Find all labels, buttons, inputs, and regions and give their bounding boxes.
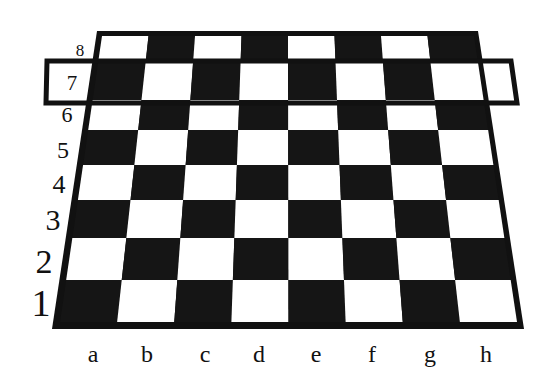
square-d3 [234, 200, 288, 238]
square-c3 [180, 200, 235, 238]
square-b7 [141, 61, 193, 100]
chessboard-svg: 87654321 abcdefgh [0, 0, 556, 385]
square-a5 [83, 130, 138, 165]
square-h7 [430, 61, 483, 100]
file-label-d: d [253, 341, 265, 367]
square-a7 [93, 61, 146, 100]
square-g1 [400, 280, 460, 322]
square-d4 [236, 165, 289, 200]
square-e4 [288, 165, 341, 200]
square-c1 [174, 280, 233, 322]
square-f4 [340, 165, 394, 200]
rank-label-7: 7 [67, 71, 78, 95]
square-d8 [241, 36, 288, 61]
square-a2 [66, 238, 126, 280]
square-f8 [335, 36, 383, 61]
square-e2 [288, 238, 344, 280]
square-h4 [442, 165, 499, 200]
file-label-c: c [200, 341, 211, 367]
square-f7 [335, 61, 385, 100]
square-c8 [193, 36, 241, 61]
square-h2 [450, 238, 510, 280]
square-a3 [72, 200, 130, 238]
square-g2 [396, 238, 455, 280]
chessboard-diagram: 87654321 abcdefgh [0, 0, 556, 385]
board-squares [60, 36, 517, 322]
square-c5 [186, 130, 239, 165]
file-label-e: e [311, 341, 322, 367]
square-g4 [391, 165, 446, 200]
square-b8 [146, 36, 195, 61]
square-d2 [233, 238, 289, 280]
square-e8 [288, 36, 335, 61]
file-labels: abcdefgh [88, 341, 492, 367]
square-h1 [455, 280, 517, 322]
square-c4 [183, 165, 237, 200]
square-b5 [134, 130, 188, 165]
rank-label-5: 5 [57, 137, 69, 163]
square-e7 [288, 61, 337, 100]
square-h5 [438, 130, 493, 165]
square-a4 [78, 165, 134, 200]
rank-label-4: 4 [53, 170, 66, 199]
rank-label-1: 1 [32, 282, 51, 324]
square-a1 [60, 280, 122, 322]
square-e1 [288, 280, 345, 322]
square-f2 [342, 238, 399, 280]
square-c7 [190, 61, 240, 100]
square-f5 [338, 130, 391, 165]
square-f1 [344, 280, 403, 322]
square-d7 [239, 61, 288, 100]
rank-label-2: 2 [36, 243, 53, 280]
square-g8 [381, 36, 430, 61]
square-d5 [237, 130, 288, 165]
square-h8 [428, 36, 478, 61]
file-label-f: f [368, 341, 376, 367]
square-g5 [388, 130, 442, 165]
square-a8 [98, 36, 148, 61]
square-g3 [393, 200, 450, 238]
square-c2 [177, 238, 234, 280]
file-label-h: h [480, 341, 492, 367]
file-label-b: b [141, 341, 153, 367]
file-label-a: a [88, 341, 99, 367]
rank-label-8: 8 [76, 41, 85, 60]
square-b2 [122, 238, 181, 280]
square-d1 [231, 280, 288, 322]
square-b3 [126, 200, 183, 238]
rank-label-6: 6 [62, 102, 73, 127]
square-b1 [117, 280, 177, 322]
rank-label-3: 3 [46, 203, 61, 236]
square-b4 [131, 165, 186, 200]
square-e3 [288, 200, 342, 238]
square-f3 [341, 200, 396, 238]
file-label-g: g [424, 341, 436, 367]
square-h3 [446, 200, 504, 238]
square-e5 [288, 130, 339, 165]
square-g7 [383, 61, 435, 100]
